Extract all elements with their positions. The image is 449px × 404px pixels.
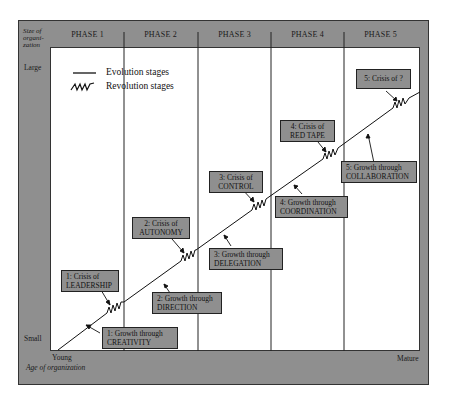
growth-box-coordination: 4: Growth throughCOORDINATION: [275, 196, 348, 218]
crisis-box-control: 3: Crisis ofCONTROL: [209, 171, 263, 193]
diagram-lines: [0, 0, 449, 404]
legend-revolution-label: Revolution stages: [106, 81, 174, 91]
crisis-box-red-tape: 4: Crisis ofRED TAPE: [280, 120, 335, 142]
growth-box-creativity: 1: Growth throughCREATIVITY: [102, 327, 178, 349]
crisis-box-autonomy: 2: Crisis ofAUTONOMY: [132, 217, 190, 239]
growth-box-delegation: 3: Growth throughDELEGATION: [209, 248, 283, 270]
revolution-legend-icon: [71, 83, 94, 90]
crisis-box-leadership: 1: Crisis ofLEADERSHIP: [61, 270, 119, 292]
crisis-box-unknown: 5: Crisis of ?: [356, 69, 411, 89]
growth-box-collaboration: 5: Growth throughCOLLABORATION: [341, 161, 417, 183]
legend-evolution-label: Evolution stages: [106, 67, 169, 77]
growth-box-direction: 2: Growth throughDIRECTION: [152, 292, 222, 314]
